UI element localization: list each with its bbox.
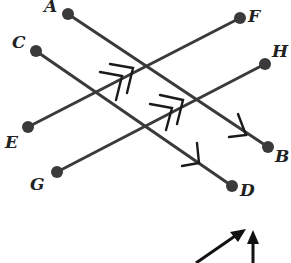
- point-b: [262, 141, 274, 153]
- label-g: G: [30, 174, 45, 194]
- label-f: F: [247, 6, 262, 26]
- label-b: B: [274, 146, 289, 166]
- point-e: [22, 121, 34, 133]
- point-d: [226, 180, 238, 192]
- segment-gh: [57, 64, 265, 172]
- label-c: C: [12, 32, 26, 52]
- point-h: [259, 58, 271, 70]
- parallel-lines-diagram: A B C D E F G H: [0, 0, 291, 263]
- point-f: [234, 12, 246, 24]
- label-d: D: [239, 180, 255, 200]
- point-c: [30, 45, 42, 57]
- point-g: [51, 166, 63, 178]
- diagonal-arrow-icon: [196, 229, 246, 263]
- segment-ef: [28, 18, 240, 127]
- label-a: A: [42, 0, 57, 16]
- point-a: [62, 8, 74, 20]
- vertical-arrow-icon: [247, 230, 259, 263]
- label-e: E: [4, 132, 19, 152]
- label-h: H: [271, 41, 289, 61]
